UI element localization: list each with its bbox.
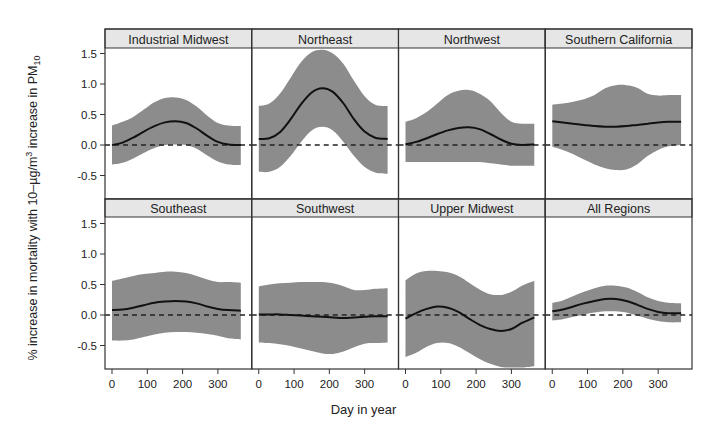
panel-southeast: Southeast [105,199,252,369]
panel-southwest: Southwest [252,199,399,369]
y-axis-label: % increase in mortality with 10–µg/m3 in… [22,0,42,439]
x-tick-label: 300 [355,378,374,390]
x-tick-label: 300 [649,378,668,390]
x-tick-label: 200 [613,378,632,390]
y-tick-label: 1.5 [81,48,97,60]
y-axis-label-mid: increase in PM [26,66,40,152]
x-tick-label: 200 [320,378,339,390]
y-axis-label-sub: 10 [32,56,42,66]
y-axis-label-main: % increase in mortality with 10–µg/m [26,157,40,361]
panel-title: Southeast [150,202,207,216]
panel-title: Northwest [444,33,501,47]
panel-upper-midwest: Upper Midwest [399,199,546,369]
y-tick-label: 1.0 [81,248,97,260]
x-tick-label: 0 [402,378,408,390]
panel-northwest: Northwest [399,29,546,199]
y-tick-label: 1.0 [81,78,97,90]
panel-title: Southern California [565,33,672,47]
y-tick-label: -0.5 [77,170,97,182]
panel-industrial-midwest: Industrial Midwest [105,29,252,199]
x-tick-label: 100 [138,378,157,390]
x-axis-label: Day in year [0,402,727,417]
panel-title: Upper Midwest [430,202,514,216]
panel-title: Industrial Midwest [128,33,229,47]
svg-text:% increase in mortality with 1: % increase in mortality with 10–µg/m3 in… [24,56,42,361]
x-tick-label: 0 [549,378,555,390]
x-tick-label: 100 [284,378,303,390]
plot-area: Industrial Midwest-0.50.00.51.01.5Northe… [0,0,727,439]
panel-northeast: Northeast [252,29,399,199]
panel-title: All Regions [587,202,650,216]
confidence-band [552,285,681,322]
panel-all-regions: All Regions [545,199,692,369]
x-tick-label: 300 [502,378,521,390]
y-tick-label: 0.0 [81,139,97,151]
x-tick-label: 300 [208,378,227,390]
x-tick-label: 0 [256,378,262,390]
y-tick-label: 0.5 [81,109,97,121]
x-tick-label: 100 [578,378,597,390]
confidence-band [259,50,388,174]
y-tick-label: -0.5 [77,340,97,352]
confidence-band [112,272,241,341]
x-tick-label: 100 [431,378,450,390]
panel-title: Northeast [298,33,353,47]
x-tick-label: 200 [173,378,192,390]
y-tick-label: 0.5 [81,279,97,291]
x-tick-label: 200 [467,378,486,390]
x-tick-label: 0 [109,378,115,390]
confidence-band [259,282,388,354]
panel-title: Southwest [296,202,355,216]
faceted-chart: Industrial Midwest-0.50.00.51.01.5Northe… [0,0,727,439]
panel-southern-california: Southern California [545,29,692,199]
y-tick-label: 1.5 [81,218,97,230]
y-tick-label: 0.0 [81,309,97,321]
confidence-band [112,97,241,165]
panel-frame [545,199,692,369]
